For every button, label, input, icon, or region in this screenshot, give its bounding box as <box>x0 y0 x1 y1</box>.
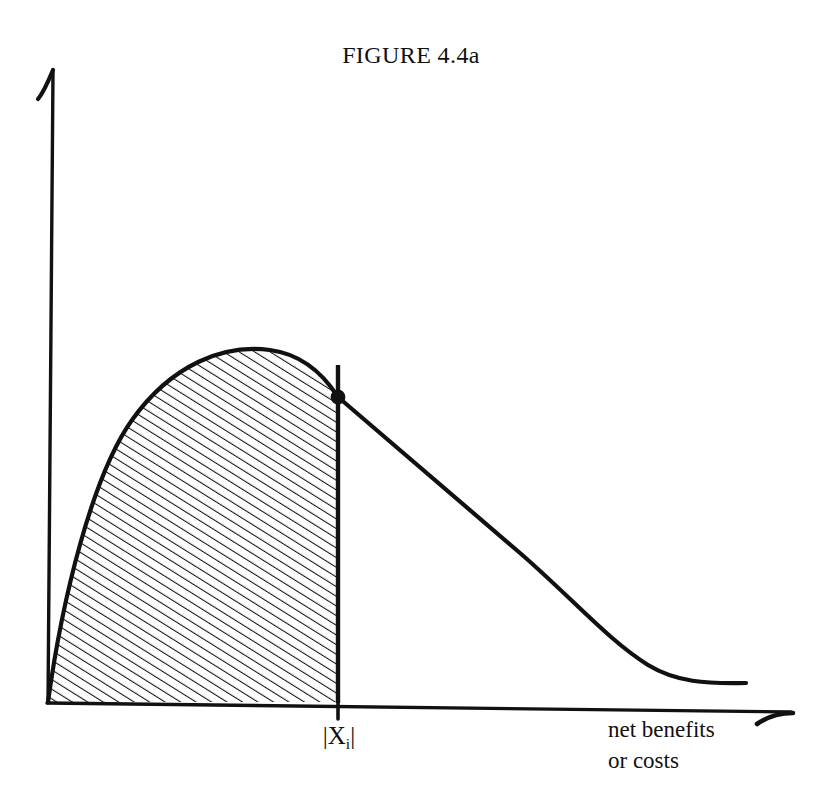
figure-container: FIGURE 4.4a <box>0 0 822 812</box>
x-axis-label: net benefits or costs <box>608 714 715 776</box>
y-axis-arrowhead-icon <box>38 70 53 99</box>
tick-label-prefix: |X <box>323 722 346 749</box>
threshold-point-marker <box>331 390 346 405</box>
y-axis-line <box>48 72 53 703</box>
x-axis-label-line-1: net benefits <box>608 714 715 745</box>
x-axis-line <box>47 703 791 712</box>
tick-label-suffix: | <box>350 722 355 749</box>
x-axis-arrowhead-icon <box>757 713 793 724</box>
x-axis-tick-label-threshold: |Xi| <box>306 722 372 753</box>
x-axis-label-line-2: or costs <box>608 745 715 776</box>
plot-area <box>0 0 822 812</box>
density-curve-falling <box>338 397 746 683</box>
